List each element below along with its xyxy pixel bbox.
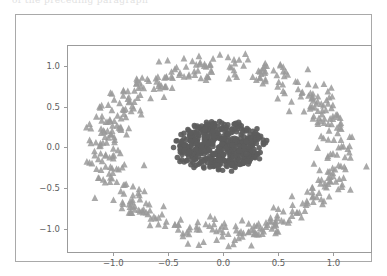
data-point [226, 131, 231, 136]
data-point [216, 166, 221, 171]
y-tick-label: 1.0 [16, 61, 60, 71]
data-point [204, 156, 209, 161]
scatter-plot-area[interactable] [67, 45, 372, 253]
data-point [236, 119, 241, 124]
data-point [309, 184, 316, 191]
data-point [184, 158, 189, 163]
data-point [304, 66, 311, 73]
x-tick-label: 0.0 [217, 258, 231, 268]
y-tick-mark [64, 66, 67, 67]
data-point [235, 126, 240, 131]
data-point [171, 145, 176, 150]
x-tick-label: 0.5 [272, 258, 286, 268]
data-point [93, 165, 100, 172]
data-point [289, 201, 296, 208]
data-point [347, 186, 354, 193]
series-inner-cluster [171, 119, 270, 174]
data-point [210, 55, 217, 62]
data-point [144, 75, 151, 82]
data-point [86, 137, 93, 144]
data-point [229, 162, 234, 167]
data-point [249, 73, 256, 80]
data-point [326, 127, 333, 134]
data-point [245, 158, 250, 163]
data-point [242, 50, 249, 57]
data-point [244, 151, 249, 156]
data-point [195, 125, 200, 130]
data-point [289, 192, 296, 199]
data-point [248, 242, 255, 249]
data-point [201, 164, 206, 169]
data-point [147, 207, 154, 214]
data-point [189, 158, 194, 163]
data-point [179, 157, 184, 162]
data-point [130, 183, 137, 190]
data-point [207, 164, 212, 169]
data-point [321, 80, 328, 87]
data-point [141, 162, 148, 169]
data-point [238, 135, 243, 140]
data-point [255, 151, 260, 156]
data-point [126, 94, 133, 101]
data-point [312, 82, 319, 89]
data-point [110, 196, 117, 203]
data-point [363, 163, 370, 170]
data-point [211, 134, 216, 139]
data-point [257, 135, 262, 140]
data-point [217, 51, 224, 58]
y-tick-label: 0.0 [16, 142, 60, 152]
data-point [194, 219, 201, 226]
data-point [93, 113, 100, 120]
data-point [137, 107, 144, 114]
data-point [188, 130, 193, 135]
data-point [137, 91, 144, 98]
x-tick-mark [333, 253, 334, 256]
y-tick-label: −0.5 [16, 183, 60, 193]
data-point [189, 57, 196, 64]
data-point [147, 95, 154, 102]
data-point [205, 141, 210, 146]
data-point [212, 151, 217, 156]
data-point [270, 67, 277, 74]
x-tick-mark [113, 253, 114, 256]
data-point [225, 230, 232, 237]
figure-frame: −1.0−0.50.00.51.0−1.0−0.50.00.51.0 [15, 14, 372, 262]
data-point [195, 67, 202, 74]
data-point [202, 127, 207, 132]
data-point [181, 55, 188, 62]
figure-root: of the preceding paragraph −1.0−0.50.00.… [0, 0, 387, 276]
data-point [311, 160, 318, 167]
data-point [210, 129, 215, 134]
data-point [225, 138, 230, 143]
data-point [200, 238, 207, 245]
data-point [207, 213, 214, 220]
data-point [226, 75, 233, 82]
data-point [169, 84, 176, 91]
data-point [193, 130, 198, 135]
data-point [179, 139, 184, 144]
data-point [193, 146, 198, 151]
x-tick-mark [223, 253, 224, 256]
data-point [213, 236, 220, 243]
data-point [196, 53, 203, 60]
data-point [111, 96, 118, 103]
data-point [217, 157, 222, 162]
data-point [178, 132, 183, 137]
data-point [114, 112, 121, 119]
data-point [186, 149, 191, 154]
data-point [205, 121, 210, 126]
x-tick-mark [168, 253, 169, 256]
data-point [270, 204, 277, 211]
data-point [326, 193, 333, 200]
data-point [229, 142, 234, 147]
data-point [193, 163, 198, 168]
data-point [185, 240, 192, 247]
data-point [110, 145, 117, 152]
data-point [206, 147, 211, 152]
data-point [219, 120, 224, 125]
data-point [241, 143, 246, 148]
data-point [286, 108, 293, 115]
x-tick-label: 1.0 [327, 258, 341, 268]
data-point [139, 74, 146, 81]
data-point [316, 189, 323, 196]
